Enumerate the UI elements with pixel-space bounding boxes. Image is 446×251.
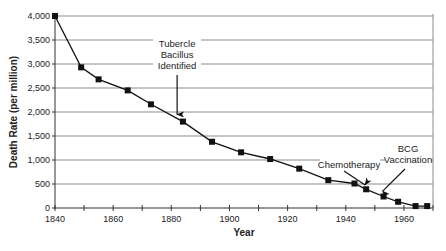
x-axis-title: Year — [233, 227, 254, 238]
data-point-marker — [381, 193, 387, 199]
annotation-label: Vaccination — [384, 154, 432, 165]
annotation-label: BCG — [398, 143, 419, 154]
annotation-label: Chemotherapy — [318, 159, 381, 170]
annotation-label: Tubercle — [159, 38, 196, 49]
data-point-marker — [363, 186, 369, 192]
data-point-marker — [125, 87, 131, 93]
y-tick-label: 1,500 — [27, 131, 50, 141]
data-point-marker — [52, 13, 58, 19]
series-line — [55, 16, 427, 206]
death-rate-chart: 05001,0001,5002,0002,5003,0003,5004,000 … — [0, 0, 446, 251]
annotation-label: Bacillus — [161, 49, 194, 60]
annotation-label: Identified — [158, 60, 197, 71]
data-point-marker — [424, 203, 430, 209]
x-tick-label: 1920 — [278, 214, 298, 224]
y-axis-ticks: 05001,0001,5002,0002,5003,0003,5004,000 — [27, 11, 55, 213]
data-point-marker — [395, 199, 401, 205]
y-tick-label: 0 — [45, 203, 50, 213]
data-point-marker — [296, 166, 302, 172]
data-point-marker — [267, 156, 273, 162]
y-tick-label: 4,000 — [27, 11, 50, 21]
data-point-marker — [96, 76, 102, 82]
x-tick-label: 1940 — [336, 214, 356, 224]
x-tick-label: 1880 — [161, 214, 181, 224]
y-tick-label: 2,000 — [27, 107, 50, 117]
data-point-marker — [180, 119, 186, 125]
data-series — [52, 13, 430, 209]
annotations: TubercleBacillusIdentifiedChemotherapyBC… — [153, 38, 432, 191]
y-tick-label: 500 — [35, 179, 50, 189]
data-point-marker — [238, 149, 244, 155]
data-point-marker — [148, 101, 154, 107]
x-tick-label: 1960 — [394, 214, 414, 224]
x-tick-label: 1840 — [45, 214, 65, 224]
y-tick-label: 3,000 — [27, 59, 50, 69]
data-point-marker — [413, 203, 419, 209]
x-tick-label: 1860 — [103, 214, 123, 224]
data-point-marker — [78, 64, 84, 70]
y-tick-label: 3,500 — [27, 35, 50, 45]
data-point-marker — [209, 139, 215, 145]
data-point-marker — [325, 177, 331, 183]
data-point-marker — [351, 181, 357, 187]
y-axis-title: Death Rate (per million) — [8, 56, 19, 168]
y-tick-label: 2,500 — [27, 83, 50, 93]
annotation-arrow — [383, 169, 405, 191]
x-tick-label: 1900 — [219, 214, 239, 224]
y-tick-label: 1,000 — [27, 155, 50, 165]
